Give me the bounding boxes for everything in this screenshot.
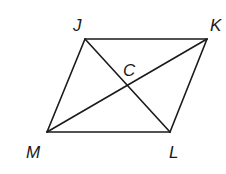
diagonal-mk (47, 39, 207, 132)
vertex-label-j: J (72, 16, 82, 35)
labels: J K L M C (26, 16, 222, 162)
vertex-label-m: M (26, 143, 41, 162)
parallelogram-diagram: J K L M C (0, 0, 226, 174)
side-mj (47, 39, 85, 132)
vertex-label-k: K (210, 16, 222, 35)
intersection-label-c: C (123, 61, 136, 80)
side-kl (170, 39, 207, 132)
diagonals (47, 39, 207, 132)
vertex-label-l: L (169, 143, 178, 162)
